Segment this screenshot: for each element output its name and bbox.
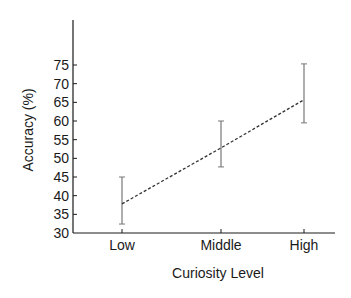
x-tick-label: Middle xyxy=(200,237,241,253)
x-tick-label: Low xyxy=(109,237,136,253)
y-tick-label: 60 xyxy=(53,113,69,129)
y-tick-label: 40 xyxy=(53,188,69,204)
y-tick-label: 55 xyxy=(53,132,69,148)
y-tick-label: 30 xyxy=(53,225,69,241)
y-tick-label: 50 xyxy=(53,150,69,166)
chart: 30354045505560657075 LowMiddleHigh Curio… xyxy=(0,0,351,298)
x-tick-label: High xyxy=(290,237,319,253)
y-tick-label: 45 xyxy=(53,169,69,185)
x-axis-title: Curiosity Level xyxy=(172,265,264,281)
trend-line xyxy=(122,100,304,204)
y-axis-title: Accuracy (%) xyxy=(20,88,36,171)
error-bars xyxy=(119,64,307,224)
y-tick-label: 65 xyxy=(53,94,69,110)
data-series xyxy=(122,100,304,204)
axes xyxy=(73,20,335,233)
y-tick-label: 70 xyxy=(53,76,69,92)
y-tick-label: 75 xyxy=(53,57,69,73)
y-tick-label: 35 xyxy=(53,206,69,222)
